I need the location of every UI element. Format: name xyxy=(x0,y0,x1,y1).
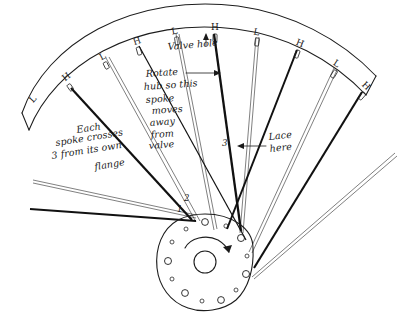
rotate-note-line-0: Rotate xyxy=(144,66,178,79)
crossing-number-3: 3 xyxy=(222,138,227,148)
lace-note-pointer-head xyxy=(237,143,244,149)
rim-end-left xyxy=(22,113,29,130)
wheel-lacing-diagram: L H L H L H L H L H Valve hole Rotate hu… xyxy=(0,0,401,326)
hub-hole-11 xyxy=(165,258,172,265)
rotate-note-line-6: valve xyxy=(148,138,175,151)
hub-hole-6 xyxy=(234,288,238,292)
nipple-9 xyxy=(358,92,366,101)
crossing-numbers: 1 2 3 xyxy=(177,138,227,214)
spoke-near-5 xyxy=(30,209,196,221)
hub-hole-4 xyxy=(245,254,249,258)
hub-hole-3 xyxy=(238,235,245,242)
rim-letter-4: L xyxy=(171,26,179,37)
rim-letter-2: L xyxy=(98,51,108,63)
rim-letter-0: L xyxy=(27,93,38,104)
spoke-far-3b xyxy=(243,37,259,233)
rim xyxy=(22,4,376,130)
rim-outer-arc xyxy=(22,4,376,113)
rotation-arrow-arc xyxy=(185,237,229,252)
rim-letter-6: L xyxy=(253,27,261,38)
hub-hole-13 xyxy=(184,227,188,231)
rotate-hub-annotation: Rotate hub so this spoke moves away from… xyxy=(143,66,221,151)
spoke-far-5b xyxy=(33,183,196,218)
rotation-arrow-head xyxy=(223,245,232,253)
cross-count-annotation: Each spoke crosses 3 from its own flange xyxy=(51,120,126,172)
crossing-number-1: 1 xyxy=(177,204,182,214)
rotate-note-line-4: away xyxy=(149,115,175,128)
spoke-far-6a xyxy=(252,153,395,277)
hub-hole-12 xyxy=(170,240,174,244)
rim-letter-7: H xyxy=(295,37,306,49)
hub-hole-1 xyxy=(202,219,209,226)
nipple-1 xyxy=(67,83,74,91)
nipple-3 xyxy=(136,47,142,56)
hub-bore xyxy=(194,251,216,273)
hub-hole-9 xyxy=(182,290,189,297)
cross-note-line-3: flange xyxy=(93,156,126,172)
hub xyxy=(157,214,253,311)
spoke-far-3a xyxy=(240,37,256,233)
rim-letter-3: H xyxy=(132,35,143,47)
hub-hole-7 xyxy=(218,297,225,304)
rim-letters: L H L H L H L H L H xyxy=(27,22,372,105)
lace-note-line-1: here xyxy=(269,141,293,154)
hub-hole-10 xyxy=(170,277,174,281)
spoke-far-2a xyxy=(176,34,214,230)
crossing-number-2: 2 xyxy=(183,193,189,203)
rotation-arrow xyxy=(185,237,232,253)
rim-letter-5: H xyxy=(211,22,219,32)
rim-letter-8: L xyxy=(331,58,341,70)
hub-spoke-holes xyxy=(165,219,250,304)
hub-hole-5 xyxy=(243,271,250,278)
hub-hole-8 xyxy=(200,299,204,303)
spoke-far-6b xyxy=(254,156,397,279)
spoke-far-4b xyxy=(252,70,337,253)
diagram-canvas: L H L H L H L H L H Valve hole Rotate hu… xyxy=(0,0,401,326)
rotate-note-line-3: moves xyxy=(151,103,183,116)
